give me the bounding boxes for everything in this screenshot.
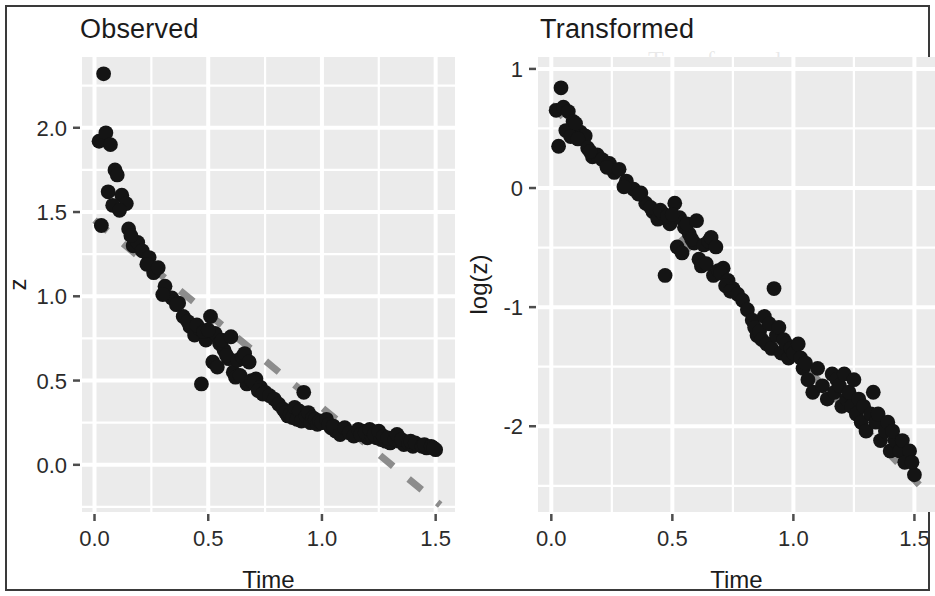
y-tick-label: 0.0 bbox=[36, 453, 67, 478]
y-tick-label: 1.5 bbox=[36, 200, 67, 225]
scatter-point bbox=[551, 139, 566, 154]
scatter-point bbox=[103, 137, 118, 152]
scatter-point bbox=[665, 207, 680, 222]
scatter-point bbox=[123, 228, 138, 243]
scatter-point bbox=[791, 337, 806, 352]
y-tick-label: 0.5 bbox=[36, 369, 67, 394]
scatter-point bbox=[426, 441, 441, 456]
scatter-point bbox=[905, 455, 920, 470]
panel-observed: Observed 0.00.51.01.50.00.51.01.52.0Time… bbox=[0, 0, 470, 596]
plot-area-transformed: 0.00.51.01.5-2-101Timelog(z) bbox=[465, 0, 935, 596]
y-tick-label: 0 bbox=[511, 176, 523, 201]
scatter-point bbox=[689, 213, 704, 228]
scatter-point bbox=[101, 184, 116, 199]
x-tick-label: 1.0 bbox=[307, 526, 338, 551]
scatter-point bbox=[96, 66, 111, 81]
figure-root: TransformedRegression on TramodelANOVA O… bbox=[0, 0, 935, 596]
scatter-point bbox=[907, 467, 922, 482]
panel-transformed: Transformed 0.00.51.01.5-2-101Timelog(z) bbox=[465, 0, 935, 596]
x-axis-title: Time bbox=[710, 566, 762, 593]
scatter-point bbox=[94, 218, 109, 233]
x-tick-label: 1.5 bbox=[899, 526, 930, 551]
scatter-point bbox=[658, 268, 673, 283]
scatter-point bbox=[203, 309, 218, 324]
y-tick-label: -2 bbox=[503, 414, 523, 439]
scatter-point bbox=[201, 323, 216, 338]
scatter-point bbox=[110, 168, 125, 183]
scatter-point bbox=[151, 260, 166, 275]
scatter-point bbox=[675, 246, 690, 261]
y-axis-title: z bbox=[4, 279, 31, 291]
x-tick-label: 0.0 bbox=[536, 526, 567, 551]
scatter-point bbox=[847, 372, 862, 387]
y-tick-label: -1 bbox=[503, 295, 523, 320]
x-tick-label: 1.5 bbox=[420, 526, 451, 551]
plot-area-observed: 0.00.51.01.50.00.51.01.52.0Timez bbox=[0, 0, 470, 596]
scatter-point bbox=[155, 287, 170, 302]
scatter-point bbox=[866, 385, 881, 400]
scatter-point bbox=[169, 297, 184, 312]
scatter-point bbox=[709, 240, 724, 255]
y-axis-title: log(z) bbox=[465, 254, 492, 314]
scatter-point bbox=[583, 144, 598, 159]
scatter-point bbox=[568, 116, 583, 131]
y-tick-label: 2.0 bbox=[36, 116, 67, 141]
x-tick-label: 0.0 bbox=[79, 526, 110, 551]
scatter-point bbox=[631, 187, 646, 202]
scatter-point bbox=[112, 203, 127, 218]
scatter-point bbox=[810, 361, 825, 376]
scatter-point bbox=[242, 355, 257, 370]
y-tick-label: 1.0 bbox=[36, 284, 67, 309]
scatter-point bbox=[617, 179, 632, 194]
x-tick-label: 1.0 bbox=[778, 526, 809, 551]
scatter-point bbox=[554, 80, 569, 95]
x-tick-label: 0.5 bbox=[193, 526, 224, 551]
x-tick-label: 0.5 bbox=[657, 526, 688, 551]
scatter-point bbox=[224, 329, 239, 344]
y-tick-label: 1 bbox=[511, 57, 523, 82]
x-axis-title: Time bbox=[242, 566, 294, 593]
scatter-point bbox=[194, 377, 209, 392]
scatter-point bbox=[296, 385, 311, 400]
scatter-point bbox=[767, 281, 782, 296]
